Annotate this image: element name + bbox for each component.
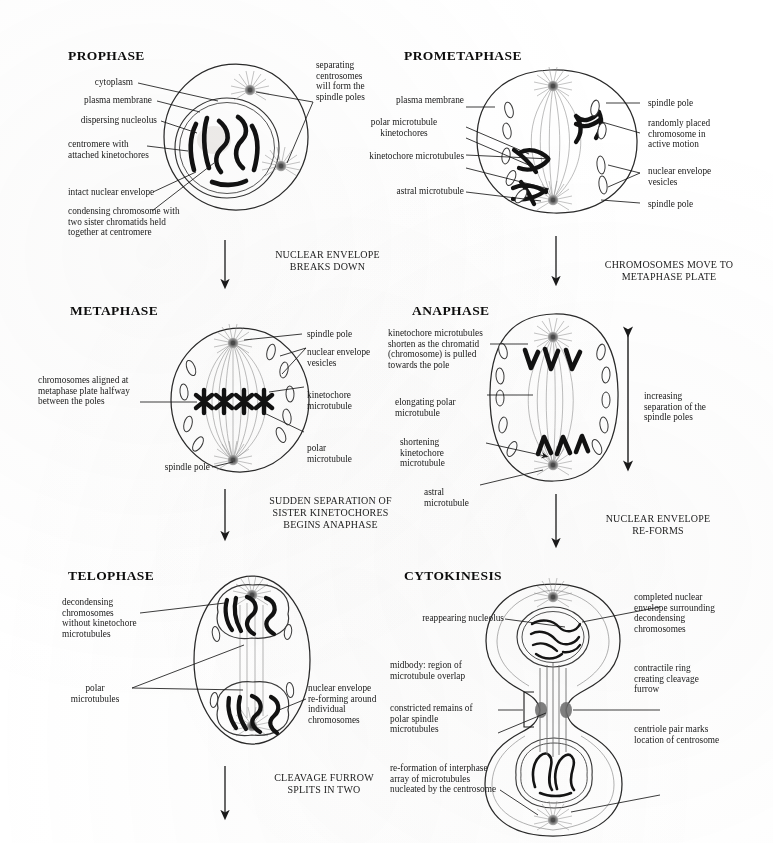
cytokinesis-label-reappearing-nucleolus: reappearing nucleolus — [376, 613, 504, 624]
mitosis-diagram: PROPHASE cytoplasm plasma membrane dispe… — [0, 0, 773, 843]
prometaphase-label-kinetochore-microtubules: kinetochore microtubules — [330, 151, 464, 162]
metaphase-label-polar-microtubule: polar microtubule — [307, 443, 411, 464]
cytokinesis-label-contractile-ring: contractile ring creating cleavage furro… — [634, 663, 752, 695]
prometaphase-label-astral-microtubule: astral microtubule — [330, 186, 464, 197]
prophase-label-dispersing-nucleolus: dispersing nucleolus — [0, 115, 157, 126]
cytokinesis-label-reformation-interphase: re-formation of interphase array of micr… — [390, 763, 534, 795]
prometaphase-label-randomly-placed-chromosome: randomly placed chromosome in active mot… — [648, 118, 764, 150]
prometaphase-label-plasma-membrane: plasma membrane — [330, 95, 464, 106]
anaphase-label-increasing-separation: increasing separation of the spindle pol… — [644, 391, 756, 423]
cytokinesis-label-constricted-remains: constricted remains of polar spindle mic… — [390, 703, 508, 735]
anaphase-label-kinetochore-shorten: kinetochore microtubules shorten as the … — [388, 328, 516, 370]
cytokinesis-label-completed-nuclear-envelope: completed nuclear envelope surrounding d… — [634, 592, 764, 634]
prometaphase-cell-art — [466, 67, 640, 213]
panel-title-metaphase: METAPHASE — [70, 303, 158, 319]
transition-nuclear-envelope-breaks-down: NUCLEAR ENVELOPE BREAKS DOWN — [240, 249, 415, 273]
transition-sudden-separation: SUDDEN SEPARATION OF SISTER KINETOCHORES… — [238, 495, 423, 531]
metaphase-label-chromosomes-aligned: chromosomes aligned at metaphase plate h… — [38, 375, 184, 407]
prophase-label-condensing-chromosome: condensing chromosome with two sister ch… — [68, 206, 228, 238]
transition-nuclear-envelope-reforms: NUCLEAR ENVELOPE RE-FORMS — [573, 513, 743, 537]
panel-title-prophase: PROPHASE — [68, 48, 145, 64]
panel-title-cytokinesis: CYTOKINESIS — [404, 568, 502, 584]
cytokinesis-label-centriole-pair: centriole pair marks location of centros… — [634, 724, 766, 745]
prometaphase-label-spindle-pole-top: spindle pole — [648, 98, 763, 109]
transition-cleavage-furrow: CLEAVAGE FURROW SPLITS IN TWO — [238, 772, 410, 796]
panel-title-anaphase: ANAPHASE — [412, 303, 489, 319]
prophase-label-nuclear-envelope: intact nuclear envelope — [68, 187, 198, 198]
anaphase-label-shortening-kinetochore: shortening kinetochore microtubule — [400, 437, 492, 469]
anaphase-label-elongating-polar: elongating polar microtubule — [395, 397, 495, 418]
metaphase-label-spindle-pole-bottom: spindle pole — [90, 462, 210, 473]
telophase-label-polar-microtubules: polar microtubules — [58, 683, 132, 704]
cytokinesis-label-midbody: midbody: region of microtubule overlap — [390, 660, 506, 681]
prometaphase-label-spindle-pole-bottom: spindle pole — [648, 199, 758, 210]
transition-chromosomes-move: CHROMOSOMES MOVE TO METAPHASE PLATE — [570, 259, 768, 283]
anaphase-label-astral-microtubule: astral microtubule — [424, 487, 504, 508]
prometaphase-label-polar-microtubule: polar microtubule kinetochores — [344, 117, 464, 138]
prometaphase-label-nuclear-envelope-vesicles: nuclear envelope vesicles — [648, 166, 758, 187]
panel-title-telophase: TELOPHASE — [68, 568, 154, 584]
prophase-label-plasma-membrane: plasma membrane — [0, 95, 152, 106]
panel-title-prometaphase: PROMETAPHASE — [404, 48, 522, 64]
prophase-label-centromere: centromere with attached kinetochores — [68, 139, 188, 160]
prophase-label-cytoplasm: cytoplasm — [0, 77, 133, 88]
telophase-label-decondensing-chromosomes: decondensing chromosomes without kinetoc… — [62, 597, 184, 639]
